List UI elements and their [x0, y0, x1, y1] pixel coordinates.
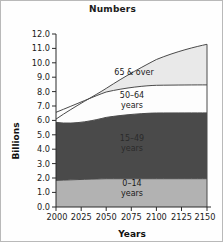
- y-tick-label: 2.0: [37, 173, 50, 183]
- x-tick-label: 2000: [47, 212, 68, 222]
- y-tick-label: 5.0: [37, 130, 50, 140]
- chart-plot-area: 12.0 11.0 10.0 9.0 8.0 7.0 6.0 5.0 4.0 3…: [1, 1, 223, 242]
- y-tick-label: 4.0: [37, 144, 50, 154]
- y-axis-title: Billions: [11, 122, 21, 159]
- y-tick-label: 3.0: [37, 159, 50, 169]
- x-tick-marks: [56, 207, 207, 211]
- series-label-15-49-line2: years: [121, 144, 143, 153]
- y-tick-label: 7.0: [37, 101, 50, 111]
- y-tick-label: 12.0: [32, 29, 50, 39]
- series-label-15-49: 15–49: [120, 134, 144, 143]
- x-tick-label: 2025: [71, 212, 92, 222]
- x-axis-title: Years: [117, 229, 146, 239]
- series-label-65-over: 65 & over: [114, 68, 154, 77]
- area-chart-svg: 12.0 11.0 10.0 9.0 8.0 7.0 6.0 5.0 4.0 3…: [1, 1, 223, 242]
- x-tick-label: 2075: [121, 212, 142, 222]
- series-label-0-14: 0–14: [122, 179, 141, 188]
- y-tick-marks: [52, 34, 56, 207]
- x-tick-label: 2125: [171, 212, 192, 222]
- y-tick-label: 1.0: [37, 187, 50, 197]
- series-label-50-64: 50–64: [120, 91, 144, 100]
- y-tick-label: 6.0: [37, 115, 50, 125]
- x-tick-label: 2050: [96, 212, 117, 222]
- y-tick-label: 8.0: [37, 87, 50, 97]
- y-tick-label: 9.0: [37, 72, 50, 82]
- x-tick-label: 2150: [195, 212, 216, 222]
- series-label-0-14-line2: years: [121, 189, 143, 198]
- series-label-50-64-line2: years: [121, 101, 143, 110]
- x-tick-label: 2100: [146, 212, 167, 222]
- chart-frame: Numbers: [0, 0, 223, 242]
- y-tick-label: 11.0: [32, 43, 50, 53]
- y-tick-label: 0.0: [37, 202, 50, 212]
- y-tick-label: 10.0: [32, 58, 50, 68]
